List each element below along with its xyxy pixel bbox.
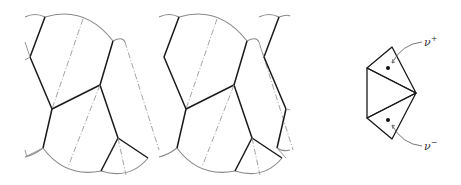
point-nu-minus bbox=[386, 118, 390, 122]
periodic-strip bbox=[25, 14, 293, 175]
diagram-canvas: ν+ ν− bbox=[0, 0, 461, 185]
point-nu-plus bbox=[386, 66, 390, 70]
strip-left-edge bbox=[25, 42, 43, 157]
label-nu-minus: ν− bbox=[424, 138, 437, 153]
inset-triangle-fan: ν+ ν− bbox=[367, 34, 437, 153]
leader-nu-plus bbox=[392, 42, 422, 63]
strip-right-edge bbox=[259, 15, 290, 159]
leader-nu-minus bbox=[392, 125, 422, 146]
label-nu-plus: ν+ bbox=[424, 34, 437, 49]
